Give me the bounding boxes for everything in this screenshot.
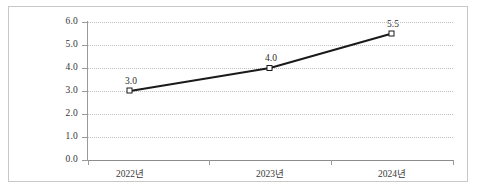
data-point-marker — [267, 66, 272, 71]
data-point-label: 4.0 — [241, 53, 301, 63]
chart-figure: 6.0 5.0 4.0 3.0 2.0 1.0 0.0 2022년 2023년 … — [0, 0, 478, 191]
data-point-marker — [389, 31, 394, 36]
data-point-label: 3.0 — [101, 76, 161, 86]
data-point-label: 5.5 — [363, 19, 423, 29]
data-point-marker — [127, 88, 132, 93]
